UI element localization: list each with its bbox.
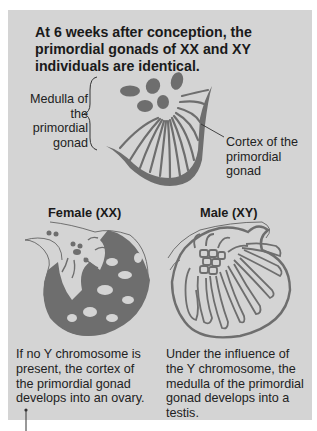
callout-dot [24,408,27,411]
medulla-brace [84,77,97,150]
diagram-illustrations [0,0,317,431]
testis-illustration [168,222,290,337]
ovary-illustration [25,222,150,336]
primordial-gonad-illustration [106,71,224,186]
